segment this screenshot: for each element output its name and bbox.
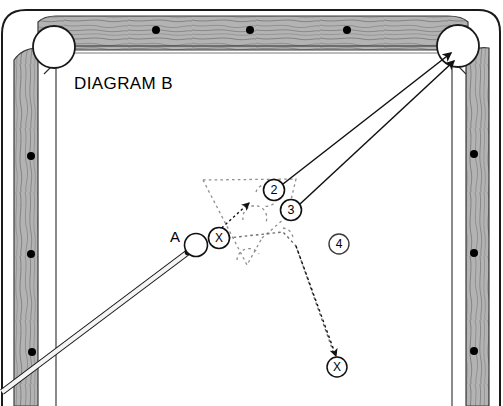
diamond-left-2 — [27, 250, 35, 258]
billiards-diagram-screenshot: X 2 3 4 X DIAGRAM B A — [0, 0, 503, 406]
page-title: DIAGRAM B — [74, 74, 173, 94]
ball-2[interactable]: 2 — [264, 180, 285, 201]
ball-2-label: 2 — [271, 183, 278, 197]
diamond-right-1 — [470, 150, 478, 158]
top-rail — [38, 16, 468, 50]
diamond-top-2 — [246, 26, 254, 34]
diamond-right-3 — [470, 347, 478, 355]
cue-ball-label-a: A — [170, 228, 180, 245]
ball-x-contact[interactable]: X — [209, 228, 230, 249]
cue-ball[interactable] — [185, 234, 208, 257]
ball-x-contact-label: X — [215, 231, 223, 245]
diamond-left-3 — [28, 348, 36, 356]
ball-3[interactable]: 3 — [281, 200, 302, 221]
ball-4-label: 4 — [336, 237, 343, 251]
ball-4[interactable]: 4 — [329, 234, 349, 254]
diamond-right-2 — [470, 249, 478, 257]
top-left-pocket[interactable] — [33, 26, 75, 68]
table-cloth — [0, 0, 503, 406]
diamond-top-1 — [152, 26, 160, 34]
ball-x-destination[interactable]: X — [327, 357, 347, 377]
diamond-left-1 — [27, 152, 35, 160]
top-right-pocket[interactable] — [437, 25, 479, 67]
ball-3-label: 3 — [288, 203, 295, 217]
ball-x-destination-label: X — [333, 360, 341, 374]
pool-table-diagram: X 2 3 4 X — [0, 0, 503, 406]
diamond-top-3 — [343, 26, 351, 34]
